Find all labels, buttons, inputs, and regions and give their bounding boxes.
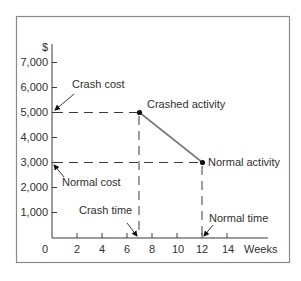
- y-tick-label: 5,000: [20, 106, 48, 118]
- crash-time-label: Crash time: [79, 204, 132, 216]
- x-tick-label: 6: [124, 243, 130, 255]
- crash-cost-arrow-icon: [55, 94, 74, 110]
- y-tick-label: 2,000: [20, 181, 48, 193]
- normal-activity-point: [200, 160, 205, 165]
- x-tick-label: 12: [196, 243, 208, 255]
- crash-time-arrow-icon: [127, 223, 137, 236]
- trade-off-line: [140, 113, 203, 163]
- y-tick-label: 6,000: [20, 81, 48, 93]
- chart: $ 1,000 2,000 3,000 4,000 5,000 6,000 7,…: [0, 0, 301, 281]
- chart-frame: [17, 17, 290, 263]
- crashed-activity-point: [137, 110, 142, 115]
- normal-time-label: Normal time: [209, 212, 268, 224]
- crashed-activity-label: Crashed activity: [147, 98, 226, 110]
- y-tick-label: 1,000: [20, 206, 48, 218]
- x-tick-label: 0: [42, 243, 48, 255]
- y-ticks: [52, 63, 57, 213]
- x-tick-label: 14: [222, 243, 234, 255]
- y-tick-label: 3,000: [20, 156, 48, 168]
- y-tick-label: 7,000: [20, 56, 48, 68]
- normal-activity-label: Normal activity: [208, 156, 281, 168]
- x-tick-label: 4: [99, 243, 105, 255]
- reference-lines: [54, 113, 202, 237]
- x-tick-label: 10: [172, 243, 184, 255]
- x-tick-label: 2: [74, 243, 80, 255]
- x-tick-label: 8: [149, 243, 155, 255]
- y-unit-label: $: [42, 41, 48, 53]
- crash-cost-label: Crash cost: [72, 78, 125, 90]
- y-tick-label: 4,000: [20, 131, 48, 143]
- x-axis-title: Weeks: [244, 243, 278, 255]
- normal-cost-label: Normal cost: [62, 176, 121, 188]
- normal-time-arrow-icon: [204, 225, 213, 236]
